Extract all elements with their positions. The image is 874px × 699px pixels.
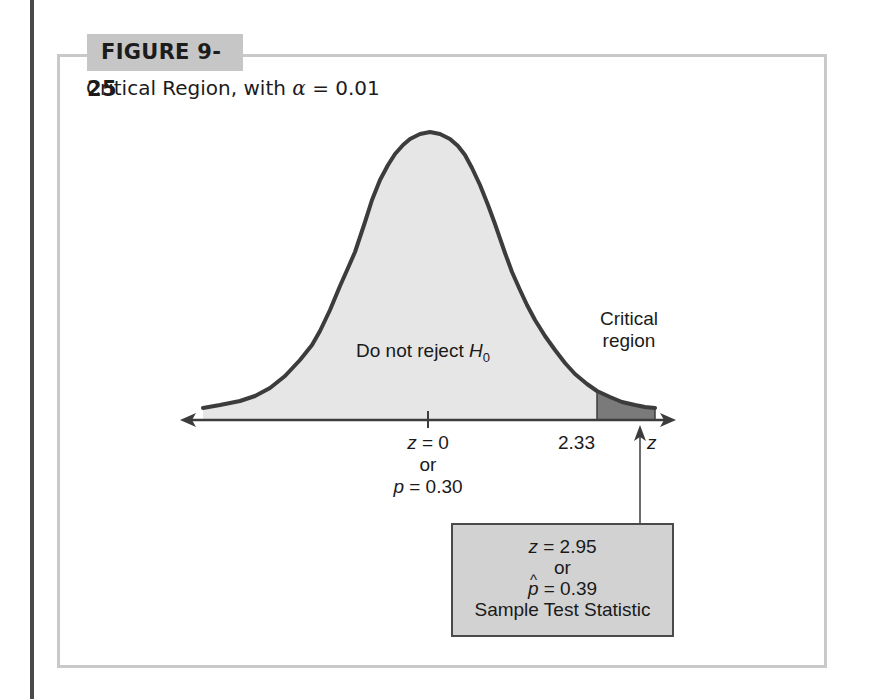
do-not-reject-label: Do not reject H0 [356, 340, 490, 369]
center-z-eq: = 0 [417, 432, 449, 453]
center-z-var: z [407, 432, 417, 453]
center-p-eq: = 0.30 [404, 476, 463, 497]
test-statistic-box: z = 2.95 or p = 0.39 Sample Test Statist… [451, 523, 674, 637]
center-label: z = 0 or p = 0.30 [378, 432, 478, 498]
stat-z-eq: = 2.95 [538, 536, 597, 557]
critical-region-line1: Critical [600, 308, 658, 330]
center-p-var: p [393, 476, 404, 497]
center-or: or [378, 454, 478, 476]
stat-caption: Sample Test Statistic [453, 599, 672, 620]
stat-or: or [453, 557, 672, 578]
critical-region-label: Critical region [600, 308, 658, 352]
center-p-line: p = 0.30 [378, 476, 478, 498]
stat-phat-line: p = 0.39 [453, 578, 672, 599]
stat-z-var: z [528, 536, 538, 557]
non-rejection-region [203, 132, 597, 420]
axis-variable-label: z [647, 432, 657, 454]
stat-phat-eq: = 0.39 [538, 578, 597, 599]
stat-phat-var: p [528, 578, 539, 599]
h-subscript: 0 [483, 350, 490, 365]
do-not-reject-text: Do not reject [356, 340, 469, 361]
critical-region-line2: region [600, 330, 658, 352]
axis-z-variable: z [647, 432, 657, 453]
critical-value-label: 2.33 [558, 432, 595, 454]
center-z-line: z = 0 [378, 432, 478, 454]
stat-z-line: z = 2.95 [453, 536, 672, 557]
h-variable: H [469, 340, 483, 361]
